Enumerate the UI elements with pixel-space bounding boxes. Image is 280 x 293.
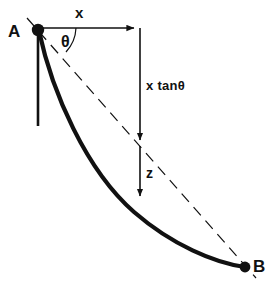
point-b-label: B bbox=[253, 258, 265, 275]
vertical-drop-label: x tanθ bbox=[146, 79, 185, 92]
horizontal-distance-label: x bbox=[75, 5, 83, 20]
offset-label: z bbox=[146, 166, 153, 180]
diagram-canvas: A B x θ x tanθ z bbox=[0, 0, 280, 293]
chord-a-to-b bbox=[27, 18, 256, 278]
point-a-marker bbox=[32, 24, 44, 36]
angle-label: θ bbox=[61, 34, 70, 50]
point-a-label: A bbox=[8, 23, 20, 40]
diagram-svg bbox=[0, 0, 280, 293]
point-b-marker bbox=[240, 262, 251, 273]
